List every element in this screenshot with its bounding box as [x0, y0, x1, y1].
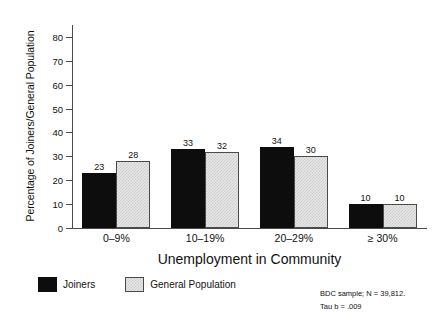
bar-value-label: 10 — [395, 193, 405, 203]
x-axis-line — [72, 228, 427, 229]
bar-group-1: 23280–9% — [82, 25, 150, 228]
y-tick-mark — [66, 109, 72, 110]
bar-value-label: 33 — [183, 138, 193, 148]
bar-general-population-1: 28 — [116, 161, 150, 228]
bar-value-label: 28 — [128, 150, 138, 160]
bar-value-label: 30 — [306, 145, 316, 155]
y-tick-label: 60 — [52, 79, 63, 90]
y-tick-label: 0 — [58, 223, 63, 234]
legend-swatch-general-population — [125, 277, 144, 292]
bar-value-label: 10 — [361, 193, 371, 203]
y-tick-mark — [66, 37, 72, 38]
x-category-label-1: 0–9% — [103, 232, 130, 244]
x-category-label-4: ≥ 30% — [368, 232, 398, 244]
y-tick-mark — [66, 228, 72, 229]
bar-joiners-2: 33 — [171, 149, 205, 228]
y-tick-mark — [66, 156, 72, 157]
x-category-label-2: 10–19% — [186, 232, 225, 244]
y-tick-mark — [66, 61, 72, 62]
y-tick-mark — [66, 204, 72, 205]
bar-general-population-2: 32 — [205, 152, 239, 228]
bar-joiners-4: 10 — [349, 204, 383, 228]
bar-chart-figure: Percentage of Joiners/General Population… — [0, 0, 436, 322]
y-tick-label: 70 — [52, 55, 63, 66]
chart-legend: Joiners General Population — [38, 277, 236, 292]
legend-entry-joiners: Joiners — [38, 277, 95, 292]
bar-group-2: 333210–19% — [171, 25, 239, 228]
legend-label-general-population: General Population — [150, 279, 236, 290]
y-tick-mark — [66, 85, 72, 86]
bar-general-population-4: 10 — [383, 204, 417, 228]
y-tick-label: 10 — [52, 199, 63, 210]
y-axis-title: Percentage of Joiners/General Population — [24, 1, 36, 251]
y-tick-label: 30 — [52, 151, 63, 162]
bar-group-3: 343020–29% — [260, 25, 328, 228]
y-tick-label: 20 — [52, 175, 63, 186]
bar-value-label: 32 — [217, 141, 227, 151]
y-tick-mark — [66, 180, 72, 181]
y-tick-label: 80 — [52, 31, 63, 42]
bar-joiners-3: 34 — [260, 147, 294, 228]
bar-general-population-3: 30 — [294, 156, 328, 228]
x-category-label-3: 20–29% — [275, 232, 314, 244]
legend-entry-general-population: General Population — [125, 277, 236, 292]
bar-joiners-1: 23 — [82, 173, 116, 228]
plot-area: 01020304050607080 23280–9%333210–19%3430… — [72, 25, 427, 228]
footnote-tau-line: Tau b = .009 — [320, 300, 405, 313]
legend-swatch-joiners — [38, 277, 57, 292]
bar-value-label: 34 — [272, 136, 282, 146]
y-tick-label: 50 — [52, 103, 63, 114]
x-axis-title: Unemployment in Community — [72, 251, 427, 267]
y-axis-line — [72, 25, 73, 228]
footnote-sample-line: BDC sample; N = 39,812. — [320, 287, 405, 300]
bar-value-label: 23 — [94, 162, 104, 172]
chart-footnote: BDC sample; N = 39,812. Tau b = .009 — [320, 287, 405, 313]
bar-group-4: 1010≥ 30% — [349, 25, 417, 228]
legend-label-joiners: Joiners — [63, 279, 95, 290]
y-tick-label: 40 — [52, 127, 63, 138]
y-tick-mark — [66, 132, 72, 133]
